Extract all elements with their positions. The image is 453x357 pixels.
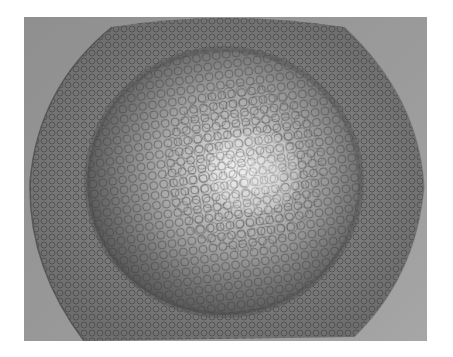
dome-photograph [24, 17, 427, 341]
image-canvas [0, 0, 453, 357]
dome-illustration [24, 17, 427, 341]
